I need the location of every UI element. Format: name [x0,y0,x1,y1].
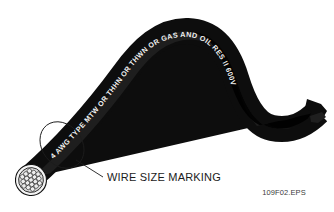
figure-credit: 109F02.EPS [262,188,306,197]
jacket-body [30,31,318,178]
cable-jacket [26,27,327,182]
wire-marking-figure: 4 AWG TYPE MTW OR THHN OR THWN OR GAS AN… [0,0,334,212]
cable-illustration: 4 AWG TYPE MTW OR THHN OR THWN OR GAS AN… [0,0,334,212]
callout-label: WIRE SIZE MARKING [107,171,221,183]
